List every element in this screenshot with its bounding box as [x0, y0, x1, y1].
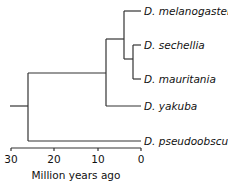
axis-tick-label: 30: [4, 153, 17, 165]
phylogenetic-tree: D. melanogaster D. sechellia D. mauritan…: [0, 0, 228, 186]
taxon-label-sechellia: D. sechellia: [144, 39, 205, 51]
taxon-label-melanogaster: D. melanogaster: [144, 5, 228, 17]
axis-tick-label: 0: [138, 153, 145, 165]
taxon-label-pseudoobscura: D. pseudoobscura: [144, 135, 228, 147]
axis-title: Million years ago: [32, 169, 121, 181]
axis-tick-label: 10: [91, 153, 104, 165]
axis-tick-label: 20: [47, 153, 60, 165]
taxon-label-yakuba: D. yakuba: [144, 100, 197, 112]
taxon-label-mauritania: D. mauritania: [144, 73, 216, 85]
